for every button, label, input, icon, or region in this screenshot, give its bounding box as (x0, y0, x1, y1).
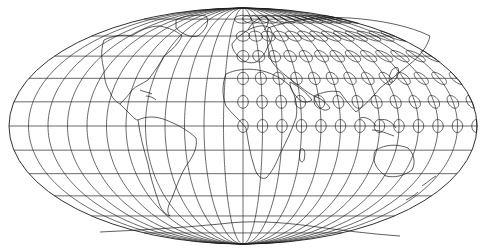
graticule (9, 8, 477, 244)
tissot-indicatrices (235, 15, 478, 132)
coastline-central-america (120, 104, 138, 120)
mollweide-map-canvas (0, 0, 484, 251)
coastline-africa (223, 69, 297, 178)
world-map (0, 0, 484, 251)
coastline-south-america (138, 117, 196, 216)
